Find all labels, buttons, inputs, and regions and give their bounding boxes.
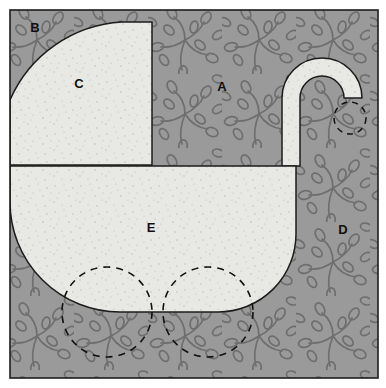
region-label-e: E xyxy=(147,220,156,235)
region-label-a: A xyxy=(217,79,227,94)
region-label-d: D xyxy=(338,222,347,237)
region-label-c: C xyxy=(74,76,84,91)
geometry-figure-canvas: A B C D E xyxy=(0,0,386,388)
carriage-body-shape xyxy=(10,166,296,312)
region-label-b: B xyxy=(30,20,39,35)
figure-svg: A B C D E xyxy=(0,0,386,388)
